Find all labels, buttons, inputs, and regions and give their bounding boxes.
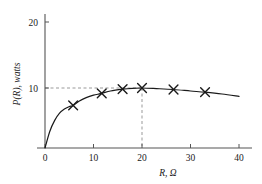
chart-svg: 20 10 0 10 20 30 40 R, Ω P(R), watts bbox=[0, 0, 262, 184]
x-tick-label-0: 0 bbox=[43, 153, 48, 163]
y-tick-label-10: 10 bbox=[29, 84, 39, 94]
x-tick-label-20: 20 bbox=[137, 153, 147, 163]
x-tick-label-30: 30 bbox=[186, 153, 196, 163]
y-tick-label-20: 20 bbox=[29, 18, 39, 28]
chart-background bbox=[0, 0, 262, 184]
x-tick-label-40: 40 bbox=[234, 153, 244, 163]
x-axis-title: R, Ω bbox=[158, 168, 177, 178]
y-axis-title: P(R), watts bbox=[12, 62, 23, 106]
power-vs-resistance-chart: 20 10 0 10 20 30 40 R, Ω P(R), watts bbox=[0, 0, 262, 184]
x-tick-label-10: 10 bbox=[89, 153, 99, 163]
